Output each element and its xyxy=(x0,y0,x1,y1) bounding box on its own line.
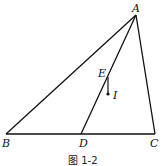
segment-ac xyxy=(136,15,155,134)
segment-ab xyxy=(6,15,136,134)
label-c: C xyxy=(150,137,159,150)
label-a: A xyxy=(131,2,140,15)
label-b: B xyxy=(1,137,10,150)
label-e: E xyxy=(97,67,106,80)
label-i: I xyxy=(112,89,118,102)
segment-ad xyxy=(81,15,136,134)
figure-caption: 图 1-2 xyxy=(68,155,98,166)
label-d: D xyxy=(78,137,88,150)
point-i-dot xyxy=(106,92,109,95)
geometry-figure: A B C D E I 图 1-2 xyxy=(0,0,162,166)
